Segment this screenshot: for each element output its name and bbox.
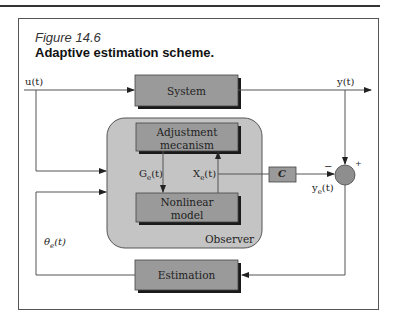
ye-signal-label: ye(t) (312, 183, 334, 196)
theta-signal-label: θe(t) (44, 237, 66, 250)
system-label: System (135, 85, 238, 98)
summing-junction (335, 165, 355, 185)
c-gain-label: C (278, 169, 286, 179)
nonlinear-label-line2: model (136, 209, 238, 222)
ge-signal-label: Ge(t) (139, 169, 163, 182)
adjustment-label-line2: mecanism (136, 139, 238, 152)
adjustment-label: Adjustment mecanism (136, 126, 238, 151)
observer-label: Observer (205, 234, 254, 245)
nonlinear-label-line1: Nonlinear (136, 196, 238, 209)
minus-sign: − (324, 162, 332, 172)
estimation-label: Estimation (135, 269, 238, 282)
xe-signal-label: Xe(t) (193, 169, 216, 182)
input-signal-label: u(t) (25, 77, 43, 87)
plus-sign: + (355, 160, 362, 168)
nonlinear-model-label: Nonlinear model (136, 196, 238, 221)
adjustment-label-line1: Adjustment (136, 126, 238, 139)
output-signal-label: y(t) (337, 77, 354, 87)
